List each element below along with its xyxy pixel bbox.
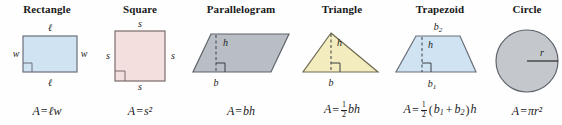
shape-heading-rectangle: Rectangle [0, 3, 94, 15]
label-top-length: ℓ [48, 22, 52, 33]
formula-equals: = [234, 104, 243, 118]
formula-rhs: s² [144, 104, 152, 118]
label-right-side: s [171, 50, 175, 61]
label-top-side: s [138, 18, 142, 29]
formula-lhs: A [32, 104, 39, 118]
trapezoid-body [396, 36, 476, 72]
formula-rhs: ℓw [49, 104, 62, 118]
formula-trapezoid: A=12(b1+b2)h [388, 101, 492, 119]
formula-equals: = [519, 104, 528, 118]
shape-card-circle: Circle r A=πr² [492, 0, 562, 125]
square-body [115, 31, 165, 81]
shape-heading-trapezoid: Trapezoid [388, 3, 492, 15]
label-bottom-base: b1 [428, 78, 437, 91]
label-height: h [337, 37, 342, 48]
formula-equals: = [40, 104, 49, 118]
label-left-side: s [106, 50, 110, 61]
shape-card-square: Square s s s s A=s² [94, 0, 186, 125]
formula-rhs: bh [348, 103, 360, 117]
formula-fraction-one-half: 12 [341, 101, 347, 119]
shape-heading-square: Square [94, 3, 186, 15]
shape-drawing-triangle: h b [296, 18, 388, 96]
label-right-width: w [81, 48, 88, 59]
formula-rectangle: A=ℓw [0, 104, 94, 119]
shape-drawing-parallelogram: h b [186, 18, 296, 96]
label-left-width: w [13, 48, 20, 59]
label-radius: r [540, 47, 544, 58]
formula-fraction-one-half: 12 [421, 101, 427, 119]
formula-lhs: A [404, 103, 411, 117]
shape-card-trapezoid: Trapezoid b2 h b1 A=12(b1+b2)h [388, 0, 492, 125]
formula-equals: = [135, 104, 144, 118]
label-bottom-length: ℓ [48, 77, 52, 88]
label-bottom-side: s [138, 81, 142, 92]
parallelogram-body [193, 34, 289, 72]
fraction-denominator: 2 [341, 111, 347, 119]
formula-parallelogram: A=bh [186, 104, 296, 119]
shape-heading-circle: Circle [492, 3, 562, 15]
label-base: b [214, 77, 219, 88]
label-height: h [223, 37, 228, 48]
formula-equals: = [331, 103, 340, 117]
formula-plus: + [444, 103, 455, 117]
fraction-denominator: 2 [421, 111, 427, 119]
formula-equals: = [411, 103, 420, 117]
label-height: h [428, 39, 433, 50]
shape-card-rectangle: Rectangle ℓ ℓ w w A=ℓw [0, 0, 94, 125]
rectangle-body [23, 36, 77, 72]
shape-heading-parallelogram: Parallelogram [186, 3, 296, 15]
shape-drawing-circle: r [492, 18, 562, 96]
shape-drawing-square: s s s s [94, 18, 186, 96]
shape-card-parallelogram: Parallelogram h b A=bh [186, 0, 296, 125]
label-base: b [329, 77, 334, 88]
formula-rhs: r² [534, 104, 542, 118]
shape-drawing-rectangle: ℓ ℓ w w [0, 18, 94, 96]
formula-circle: A=πr² [492, 104, 562, 119]
formula-square: A=s² [94, 104, 186, 119]
shape-heading-triangle: Triangle [296, 3, 388, 15]
formula-triangle: A=12bh [296, 101, 388, 119]
formula-rhs: h [470, 103, 476, 117]
geometry-area-formulas-figure: Rectangle ℓ ℓ w w A=ℓw Square s s s [0, 0, 562, 125]
shape-card-triangle: Triangle h b A=12bh [296, 0, 388, 125]
label-top-base: b2 [434, 21, 443, 34]
shape-drawing-trapezoid: b2 h b1 [388, 18, 492, 96]
formula-rhs: bh [243, 104, 255, 118]
